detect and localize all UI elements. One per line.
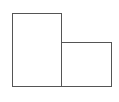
short-rectangle bbox=[61, 42, 112, 87]
diagram-canvas bbox=[0, 0, 119, 102]
tall-rectangle bbox=[12, 13, 62, 87]
